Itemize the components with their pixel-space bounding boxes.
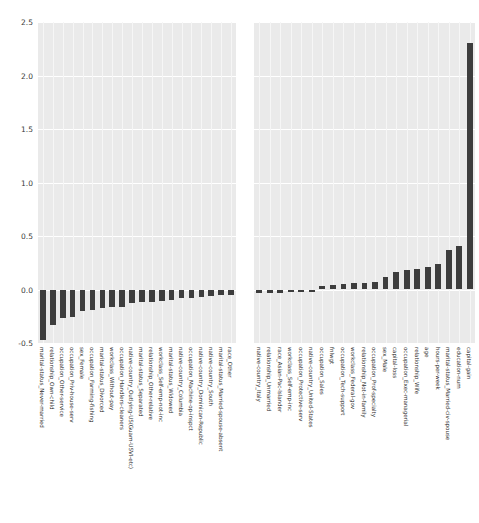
- bar: [109, 290, 115, 307]
- bar: [90, 290, 96, 310]
- bar: [351, 283, 357, 289]
- x-tick-label: occupation_Exec-managerial: [403, 347, 409, 426]
- x-tick-label: workclass_Without-pay: [109, 347, 115, 410]
- x-tick-label: marital-status_Married-spouse-absent: [218, 347, 224, 451]
- x-tick-label: hours-per-week: [435, 347, 441, 390]
- vertical-gridline: [333, 22, 334, 343]
- bar: [372, 282, 378, 289]
- vertical-gridline: [301, 22, 302, 343]
- x-tick-label: education-num: [456, 347, 462, 389]
- bar: [100, 290, 106, 308]
- vertical-gridline: [417, 22, 418, 343]
- x-tick-label: native-country_Dominican-Republic: [198, 347, 204, 445]
- bar: [288, 290, 294, 292]
- x-tick-label: workclass_Self-emp-not-inc: [158, 347, 164, 422]
- bar: [119, 290, 125, 307]
- bar: [277, 290, 283, 293]
- vertical-gridline: [343, 22, 344, 343]
- plot-area-right: [254, 22, 475, 343]
- bar: [256, 290, 262, 293]
- x-tick-label: marital-status_Never-married: [39, 347, 45, 428]
- horizontal-gridline: [38, 290, 236, 291]
- chart-panel-left: 2.52.01.51.00.50.0-0.5 marital-status_Ne…: [0, 0, 240, 523]
- x-tick-label: occupation_Other-service: [59, 347, 65, 417]
- horizontal-gridline: [38, 22, 236, 23]
- x-tick-label: marital-status_Separated: [138, 347, 144, 417]
- bar: [70, 290, 76, 318]
- vertical-gridline: [428, 22, 429, 343]
- x-tick-label: occupation_Farming-fishing: [89, 347, 95, 422]
- vertical-gridline: [231, 22, 232, 343]
- x-tick-label: native-country_Outlying-US(Guam-USVI-etc…: [128, 347, 134, 469]
- x-tick-label: fnlwgt: [329, 347, 335, 364]
- bar: [456, 246, 462, 290]
- bar: [60, 290, 66, 319]
- x-tick-label: native-country_Italy: [256, 347, 262, 402]
- vertical-gridline: [407, 22, 408, 343]
- bar: [40, 290, 46, 340]
- bar: [179, 290, 185, 299]
- bar: [149, 290, 155, 303]
- vertical-gridline: [280, 22, 281, 343]
- vertical-gridline: [396, 22, 397, 343]
- y-axis-tick-label: 1.5: [21, 125, 33, 134]
- vertical-gridline: [438, 22, 439, 343]
- vertical-gridline: [375, 22, 376, 343]
- x-tick-label: relationship_Unmarried: [266, 347, 272, 411]
- x-tick-label: sex_Female: [79, 347, 85, 379]
- y-axis-left: 2.52.01.51.00.50.0-0.5: [0, 0, 36, 523]
- bar: [330, 285, 336, 289]
- bar: [267, 290, 273, 293]
- bar: [189, 290, 195, 299]
- x-tick-label: workclass_Federal-gov: [350, 347, 356, 409]
- bar: [446, 250, 452, 290]
- x-tick-label: relationship_Own-child: [49, 347, 55, 409]
- plot-area-left: [38, 22, 236, 343]
- bar: [139, 290, 145, 303]
- vertical-gridline: [322, 22, 323, 343]
- vertical-gridline: [270, 22, 271, 343]
- horizontal-gridline: [38, 183, 236, 184]
- x-tick-label: marital-status_Divorced: [99, 347, 105, 413]
- vertical-gridline: [291, 22, 292, 343]
- bar: [228, 290, 234, 295]
- bar: [129, 290, 135, 304]
- x-tick-label: race_Asian-Pac-Islander: [277, 347, 283, 412]
- x-tick-label: marital-status_Widowed: [168, 347, 174, 413]
- bar: [435, 264, 441, 290]
- bar: [362, 283, 368, 289]
- bar: [169, 290, 175, 301]
- y-axis-tick-label: 0.5: [21, 232, 33, 241]
- vertical-gridline: [449, 22, 450, 343]
- bar: [404, 270, 410, 289]
- y-axis-tick-label: 1.0: [21, 178, 33, 187]
- horizontal-gridline: [38, 129, 236, 130]
- x-tick-label: occupation_Priv-house-serv: [69, 347, 75, 422]
- y-axis-tick-label: 2.0: [21, 71, 33, 80]
- x-tick-label: native-country_United-States: [308, 347, 314, 427]
- x-tick-label: occupation_Handlers-cleaners: [119, 347, 125, 430]
- y-axis-tick-label: 2.5: [21, 18, 33, 27]
- x-tick-label: capital-gain: [466, 347, 472, 379]
- bar: [309, 290, 315, 292]
- x-tick-label: sex_Male: [382, 347, 388, 372]
- x-tick-label: workclass_Self-emp-inc: [287, 347, 293, 411]
- x-tick-label: relationship_Not-in-family: [361, 347, 367, 418]
- vertical-gridline: [365, 22, 366, 343]
- vertical-gridline: [259, 22, 260, 343]
- x-tick-label: native-country_South: [208, 347, 214, 406]
- x-tick-label: occupation_Sales: [319, 347, 325, 395]
- x-tick-label: marital-status_Married-civ-spouse: [445, 347, 451, 440]
- bar: [425, 267, 431, 289]
- x-tick-label: relationship_Wife: [414, 347, 420, 394]
- bar: [467, 43, 473, 289]
- bar: [80, 290, 86, 311]
- vertical-gridline: [354, 22, 355, 343]
- horizontal-gridline: [38, 236, 236, 237]
- vertical-gridline: [459, 22, 460, 343]
- vertical-gridline: [386, 22, 387, 343]
- x-tick-label: race_Other: [227, 347, 233, 377]
- y-axis-tick-label: 0.0: [21, 285, 33, 294]
- x-tick-label: occupation_Protective-serv: [298, 347, 304, 421]
- bar: [50, 290, 56, 325]
